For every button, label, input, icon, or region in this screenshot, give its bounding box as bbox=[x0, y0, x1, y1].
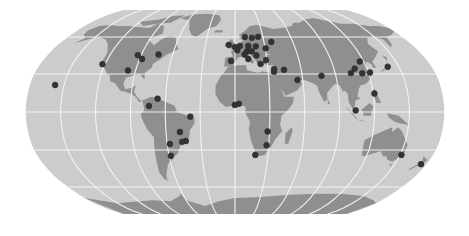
marker-sao-paulo bbox=[179, 139, 185, 145]
marker-dallas bbox=[125, 68, 131, 74]
marker-asuncion bbox=[167, 141, 173, 147]
marker-paris bbox=[234, 47, 240, 53]
marker-delhi bbox=[319, 73, 325, 79]
marker-stockholm bbox=[249, 35, 255, 41]
marker-moscow bbox=[268, 39, 274, 45]
marker-madrid bbox=[228, 58, 234, 64]
marker-singapore bbox=[353, 108, 359, 114]
marker-wellington bbox=[418, 161, 424, 167]
marker-beijing bbox=[357, 59, 363, 65]
marker-caracas bbox=[155, 96, 161, 102]
marker-xi-an bbox=[352, 66, 358, 72]
marker-lusaka bbox=[265, 129, 271, 135]
marker-athens bbox=[258, 61, 264, 67]
marker-bogota bbox=[146, 103, 152, 109]
marker-shanghai bbox=[367, 70, 373, 76]
marker-baghdad bbox=[281, 67, 287, 73]
marker-kyiv bbox=[263, 45, 269, 51]
marker-belgrade bbox=[254, 53, 260, 59]
marker-brasilia bbox=[177, 129, 183, 135]
world-map bbox=[0, 0, 469, 236]
marker-jerusalem bbox=[271, 69, 277, 75]
marker-johannesburg bbox=[264, 142, 270, 148]
marker-dubai bbox=[295, 77, 301, 83]
marker-montreal bbox=[156, 52, 162, 58]
marker-helsinki bbox=[255, 34, 261, 40]
marker-fortaleza bbox=[187, 114, 193, 120]
marker-buenos-aires bbox=[168, 153, 174, 159]
marker-berlin bbox=[245, 43, 251, 49]
marker-vienna bbox=[249, 48, 255, 54]
marker-istanbul bbox=[263, 57, 269, 63]
marker-warsaw bbox=[253, 43, 259, 49]
marker-wuhan bbox=[359, 70, 365, 76]
marker-sydney bbox=[399, 152, 405, 158]
marker-tokyo bbox=[385, 64, 391, 70]
marker-hawaii bbox=[52, 82, 58, 88]
marker-minneapolis bbox=[135, 52, 141, 58]
marker-oslo bbox=[242, 34, 248, 40]
marker-rome bbox=[245, 56, 251, 62]
marker-manila bbox=[372, 91, 378, 97]
marker-san-francisco bbox=[100, 61, 106, 67]
marker-dublin bbox=[226, 42, 232, 48]
marker-cape-town bbox=[252, 152, 258, 158]
marker-accra bbox=[232, 102, 238, 108]
